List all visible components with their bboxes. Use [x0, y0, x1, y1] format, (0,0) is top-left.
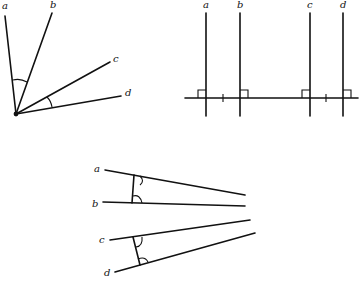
right-angle-mark-b: [240, 90, 248, 98]
label-b: b: [92, 198, 98, 209]
line-a: [5, 16, 16, 114]
label-a: a: [94, 163, 100, 174]
figure-transversal-pairs: a b c d: [92, 163, 255, 278]
label-d: d: [125, 87, 131, 98]
label-a: a: [203, 0, 209, 10]
transversal-ab: [132, 175, 134, 203]
angle-arc-ab: [13, 79, 27, 82]
right-angle-mark-c: [302, 90, 310, 98]
figure-concurrent-lines: a b c d: [2, 0, 131, 116]
angle-arc-b: [133, 196, 142, 203]
label-c: c: [307, 0, 313, 10]
vertex-point: [14, 112, 19, 117]
label-c: c: [113, 53, 119, 64]
right-angle-mark-d: [343, 90, 351, 98]
label-c: c: [99, 234, 105, 245]
transversal-cd: [133, 237, 140, 265]
geometry-diagram: a b c d a b c d a b c d: [0, 0, 360, 281]
label-b: b: [50, 0, 56, 10]
label-a: a: [2, 0, 8, 11]
angle-arc-cd: [47, 97, 52, 107]
line-a: [105, 170, 245, 195]
label-d: d: [104, 267, 110, 278]
right-angle-mark-a: [198, 90, 206, 98]
line-c: [110, 220, 250, 240]
line-b: [103, 202, 245, 206]
figure-parallel-lines: a b c d: [185, 0, 358, 116]
angle-arc-c: [136, 237, 142, 247]
label-b: b: [237, 0, 243, 10]
line-d: [115, 233, 255, 272]
label-d: d: [340, 0, 346, 10]
line-b: [16, 13, 52, 114]
